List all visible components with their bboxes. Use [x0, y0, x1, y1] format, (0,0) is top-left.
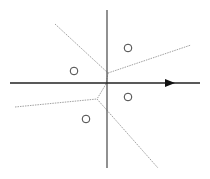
site-point [124, 93, 132, 101]
boundary-line [108, 45, 191, 73]
voronoi-diagram [0, 0, 210, 179]
boundary-line [97, 84, 106, 99]
boundary-line [15, 99, 97, 107]
boundary-line [55, 24, 108, 73]
region-boundaries [15, 24, 191, 168]
site-point [82, 115, 90, 123]
boundary-line [97, 99, 158, 168]
site-point [124, 44, 132, 52]
arrowhead-icon [165, 79, 175, 87]
site-point [70, 67, 78, 75]
